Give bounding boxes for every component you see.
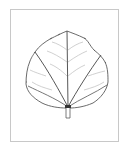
primary-vein-left-upper — [35, 52, 68, 107]
midrib — [67, 31, 68, 107]
petiole — [66, 107, 70, 118]
primary-vein-right-upper — [68, 55, 101, 107]
leaf-illustration — [0, 0, 130, 149]
